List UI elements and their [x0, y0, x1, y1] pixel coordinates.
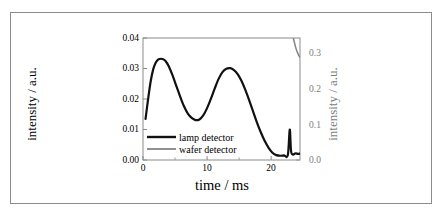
chart-plot-area: time / ms intensity / a.u. intensity / a…: [0, 0, 442, 219]
plot-svg: [0, 0, 442, 219]
figure-root: time / ms intensity / a.u. intensity / a…: [0, 0, 442, 219]
series-line-lamp-detector: [146, 59, 300, 157]
legend-swatch-group: [147, 137, 176, 149]
series-line-wafer-detector: [146, 0, 300, 57]
curves-group: [146, 0, 300, 157]
